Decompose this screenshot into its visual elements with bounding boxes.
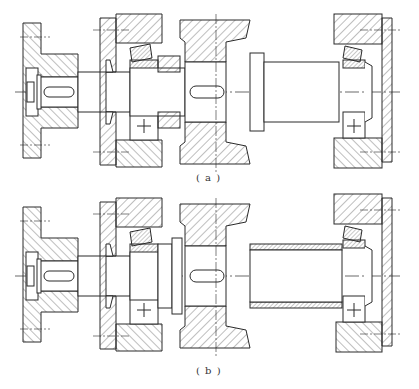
shaft-assembly-drawing-a xyxy=(0,0,419,190)
figure-a: ( a ) xyxy=(0,0,419,190)
caption-b: ( b ) xyxy=(196,365,222,376)
figure-b: ( b ) xyxy=(0,190,419,389)
shaft-assembly-drawing-b xyxy=(0,190,419,389)
caption-a: ( a ) xyxy=(196,172,221,183)
